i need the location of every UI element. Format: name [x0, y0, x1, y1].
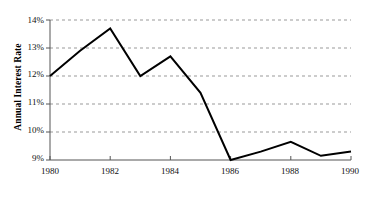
- gridlines: [50, 20, 351, 132]
- interest-rate-line-chart: Annual Interest Rate 14% 13% 12% 11% 10%…: [0, 0, 368, 213]
- plot-area: [0, 0, 368, 213]
- axis-lines: [50, 20, 351, 160]
